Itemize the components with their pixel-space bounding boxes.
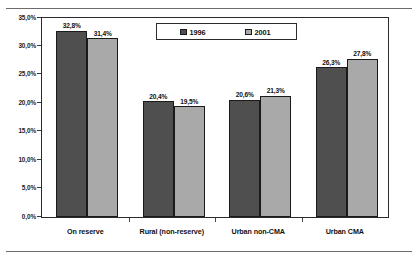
y-axis-tick: 25,0% <box>0 69 41 79</box>
bar-1996-urban-cma[interactable] <box>316 67 347 217</box>
bar-value-label: 19,5% <box>171 98 208 105</box>
y-axis-tick-label: 25,0% <box>18 70 36 77</box>
bottom-rule <box>6 251 412 252</box>
y-axis-tick-label: 20,0% <box>18 99 36 106</box>
bar-group: 32,8%31,4% <box>56 18 118 217</box>
y-axis-tick-label: 10,0% <box>18 156 36 163</box>
y-axis-tick: 20,0% <box>0 97 41 107</box>
bar-group: 20,6%21,3% <box>229 18 291 217</box>
top-rule <box>6 8 412 9</box>
y-axis: 0,0%5,0%10,0%15,0%20,0%25,0%30,0%35,0% <box>0 17 41 218</box>
bar-value-label: 32,8% <box>53 22 90 29</box>
bar-2001-rural-non-reserve-[interactable] <box>174 106 205 217</box>
y-axis-tick-label: 0,0% <box>22 213 36 220</box>
x-axis-category-label: Rural (non-reserve) <box>129 227 216 236</box>
legend-item-1996[interactable]: 1996 <box>180 27 206 38</box>
bar-group: 26,3%27,8% <box>316 18 378 217</box>
bar-value-label: 26,3% <box>313 59 350 66</box>
y-axis-tick-label: 35,0% <box>18 14 36 21</box>
bar-group: 20,4%19,5% <box>143 18 205 217</box>
x-axis-category-label: Urban CMA <box>302 227 389 236</box>
x-axis-tick-mark <box>215 218 216 222</box>
bar-value-label: 21,3% <box>257 87 294 94</box>
chart-figure: 0,0%5,0%10,0%15,0%20,0%25,0%30,0%35,0% 3… <box>0 0 418 260</box>
y-axis-tick-label: 15,0% <box>18 127 36 134</box>
y-axis-tick: 10,0% <box>0 154 41 164</box>
x-axis-tick-mark <box>302 218 303 222</box>
bar-value-label: 31,4% <box>84 30 121 37</box>
x-axis: On reserveRural (non-reserve)Urban non-C… <box>42 218 388 242</box>
y-axis-tick: 0,0% <box>0 211 41 221</box>
y-axis-tick-label: 5,0% <box>22 184 36 191</box>
legend-swatch-1996-icon <box>180 29 187 36</box>
bar-2001-on-reserve[interactable] <box>87 38 118 217</box>
x-axis-category-label: On reserve <box>42 227 129 236</box>
bar-1996-urban-non-cma[interactable] <box>229 100 260 217</box>
legend-swatch-2001-icon <box>245 29 252 36</box>
y-axis-tick-label: 30,0% <box>18 42 36 49</box>
bar-1996-on-reserve[interactable] <box>56 31 87 217</box>
x-axis-category-label: Urban non-CMA <box>215 227 302 236</box>
legend-label-1996: 1996 <box>190 28 206 37</box>
plot-area: 32,8%31,4%20,4%19,5%20,6%21,3%26,3%27,8% <box>42 18 388 217</box>
bar-value-label: 27,8% <box>344 50 381 57</box>
bar-1996-rural-non-reserve-[interactable] <box>143 101 174 217</box>
legend-label-2001: 2001 <box>255 28 271 37</box>
y-axis-tick: 30,0% <box>0 40 41 50</box>
bar-2001-urban-cma[interactable] <box>347 59 378 217</box>
chart-legend: 1996 2001 <box>156 23 297 40</box>
x-axis-tick-mark <box>129 218 130 222</box>
y-axis-tick: 35,0% <box>0 12 41 22</box>
y-axis-tick: 15,0% <box>0 126 41 136</box>
legend-item-2001[interactable]: 2001 <box>245 27 271 38</box>
bar-2001-urban-non-cma[interactable] <box>260 96 291 217</box>
y-axis-tick: 5,0% <box>0 183 41 193</box>
